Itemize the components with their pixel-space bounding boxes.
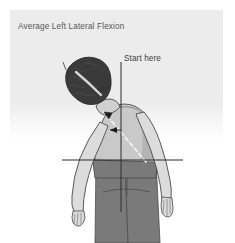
anatomy-illustration: [0, 0, 235, 243]
head-hair: [66, 57, 111, 104]
head-tick-mark: [63, 62, 66, 70]
flexion-figure-panel: Average Left Lateral Flexion: [0, 0, 235, 243]
start-here-label: Start here: [124, 54, 161, 63]
angle-value-label: 40°: [98, 84, 111, 94]
